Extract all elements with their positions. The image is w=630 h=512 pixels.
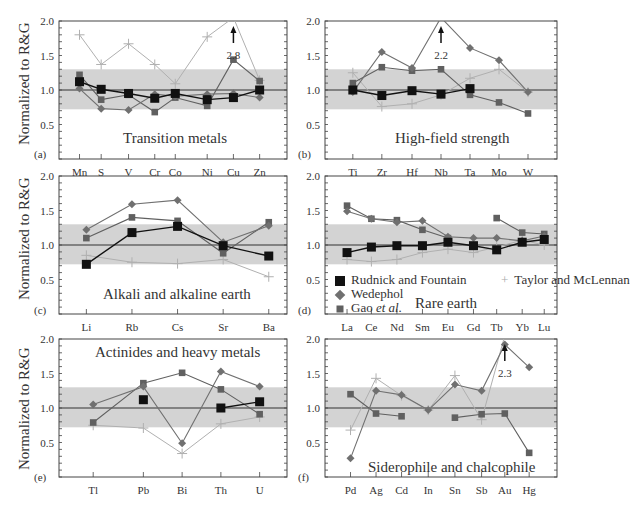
y-tick-label: 1.0: [306, 239, 320, 251]
y-tick-label: 1.5: [40, 50, 54, 62]
filled-square-icon: [335, 276, 345, 286]
y-tick-label: 1.0: [40, 239, 54, 251]
chart-a: 0.51.01.52.0MnSVCrCoNiCuZn2.8: [59, 21, 287, 191]
y-tick-label: 1.0: [306, 84, 320, 96]
panel-label-e: (e): [34, 471, 46, 483]
x-tick-label: Nd: [390, 321, 404, 333]
annotation-label: 2.8: [227, 49, 241, 61]
x-tick-label: Ba: [263, 321, 275, 333]
variance-band: [59, 224, 287, 264]
panel-label-c: (c): [34, 304, 46, 316]
x-tick-label: Gd: [467, 321, 481, 333]
diamond-icon: [335, 290, 346, 301]
y-tick-label: 2.0: [306, 333, 320, 345]
panel-f: 0.51.01.52.0PdAgCdInSnSbAuHg2.3: [325, 339, 557, 477]
y-tick-label: 2.0: [40, 15, 54, 27]
x-tick-label: Cd: [395, 484, 408, 496]
annotation-label: 2.3: [498, 367, 512, 379]
x-tick-label: Li: [81, 321, 91, 333]
x-tick-label: Sn: [449, 484, 461, 496]
y-tick-label: 2.0: [40, 170, 54, 182]
y-tick-label: 0.5: [306, 437, 320, 449]
y-axis-label-a: Normalized to R&G: [16, 23, 33, 145]
chart-c: 0.51.01.52.0LiRbCsSrBa: [59, 176, 287, 346]
chart-b: 0.51.01.52.0TiZrHfNbTaMoW2.2: [325, 21, 557, 191]
small-square-icon: [337, 306, 344, 313]
chart-e: 0.51.01.52.0TlPbBiThU: [59, 339, 287, 509]
y-tick-label: 0.5: [40, 274, 54, 286]
x-tick-label: Eu: [442, 321, 455, 333]
legend-item-gao: Gao et al.: [335, 300, 402, 316]
legend-item-taylor: +Taylor and McLennan: [501, 272, 630, 288]
panel-title-c: Alkali and alkaline earth: [103, 286, 251, 303]
x-tick-label: Au: [498, 484, 512, 496]
x-tick-label: Cs: [172, 321, 184, 333]
chart-f: 0.51.01.52.0PdAgCdInSnSbAuHg2.3: [325, 339, 557, 509]
panel-label-b: (b): [298, 148, 311, 160]
x-tick-label: Sm: [415, 321, 430, 333]
panel-title-f: Siderophile and chalcophile: [368, 459, 535, 476]
y-tick-label: 1.5: [306, 205, 320, 217]
x-tick-label: Ce: [365, 321, 377, 333]
y-tick-label: 0.5: [306, 274, 320, 286]
x-tick-label: Sr: [218, 321, 228, 333]
x-tick-label: Tl: [88, 484, 98, 496]
y-tick-label: 0.5: [40, 437, 54, 449]
panel-title-e: Actinides and heavy metals: [95, 344, 260, 361]
x-tick-label: U: [256, 484, 264, 496]
y-tick-label: 1.5: [40, 368, 54, 380]
y-tick-label: 0.5: [40, 119, 54, 131]
panel-title-b: High-field strength: [395, 130, 510, 147]
x-tick-label: Tb: [491, 321, 504, 333]
x-tick-label: Th: [215, 484, 228, 496]
y-tick-label: 0.5: [306, 119, 320, 131]
panel-label-f: (f): [298, 471, 309, 483]
panel-title-d: Rare earth: [415, 295, 477, 312]
x-tick-label: Pd: [345, 484, 357, 496]
variance-band: [325, 69, 557, 109]
x-tick-label: Sb: [476, 484, 488, 496]
y-tick-label: 1.0: [40, 84, 54, 96]
y-tick-label: 1.5: [306, 368, 320, 380]
y-tick-label: 1.5: [306, 50, 320, 62]
y-axis-label-e: Normalized to R&G: [16, 348, 33, 470]
panel-label-a: (a): [34, 148, 46, 160]
y-tick-label: 2.0: [306, 15, 320, 27]
chart-d: 0.51.01.52.0LaCeNdSmEuGdTbYbLu: [325, 176, 557, 346]
x-tick-label: Ag: [369, 484, 383, 496]
x-tick-label: Bi: [177, 484, 187, 496]
y-axis-label-c: Normalized to R&G: [16, 178, 33, 300]
y-tick-label: 1.0: [40, 402, 54, 414]
y-tick-label: 1.5: [40, 205, 54, 217]
y-tick-label: 2.0: [40, 333, 54, 345]
x-tick-label: Hg: [522, 484, 536, 496]
x-tick-label: Rb: [126, 321, 139, 333]
x-tick-label: Lu: [538, 321, 551, 333]
x-tick-label: La: [341, 321, 353, 333]
x-tick-label: Pb: [138, 484, 150, 496]
plus-icon: +: [501, 272, 508, 287]
annotation-label: 2.2: [434, 49, 448, 61]
x-tick-label: In: [424, 484, 434, 496]
panel-title-a: Transition metals: [123, 130, 227, 147]
x-tick-label: Yb: [515, 321, 529, 333]
y-tick-label: 2.0: [306, 170, 320, 182]
panel-label-d: (d): [298, 304, 311, 316]
y-tick-label: 1.0: [306, 402, 320, 414]
